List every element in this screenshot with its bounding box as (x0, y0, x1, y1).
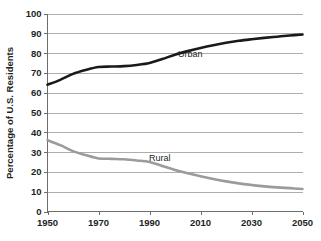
y-axis-title: Percentage of U.S. Residents (4, 47, 15, 179)
x-tick-label-1950: 1950 (37, 217, 58, 228)
x-tick-label-2030: 2030 (241, 217, 262, 228)
y-tick-label-30: 30 (31, 147, 42, 158)
y-tick-label-50: 50 (31, 107, 42, 118)
chart-canvas: 0102030405060708090100 19501970199020102… (0, 0, 321, 241)
series-label-rural: Rural (149, 153, 171, 163)
x-tick-label-1990: 1990 (139, 217, 160, 228)
y-tick-label-60: 60 (31, 87, 42, 98)
line-chart: 0102030405060708090100 19501970199020102… (0, 0, 321, 241)
y-tick-label-100: 100 (26, 8, 42, 19)
y-tick-label-10: 10 (31, 186, 42, 197)
y-tick-label-80: 80 (31, 48, 42, 59)
x-tick-label-2010: 2010 (190, 217, 211, 228)
x-tick-label-1970: 1970 (88, 217, 109, 228)
y-tick-label-90: 90 (31, 28, 42, 39)
y-tick-label-20: 20 (31, 166, 42, 177)
y-tick-label-70: 70 (31, 67, 42, 78)
y-tick-label-40: 40 (31, 127, 42, 138)
series-label-urban: Urban (178, 49, 203, 59)
x-tick-label-2050: 2050 (292, 217, 313, 228)
y-tick-label-0: 0 (36, 206, 41, 217)
